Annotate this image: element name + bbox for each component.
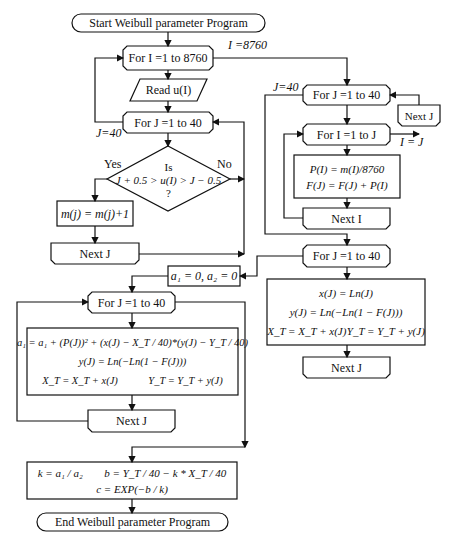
decision-line3: ? xyxy=(166,187,171,200)
decision-text: Is J + 0.5 > u(I) > J − 0.5 ? xyxy=(107,160,230,200)
decision-line2: J + 0.5 > u(I) > J − 0.5 xyxy=(116,174,221,187)
label-no: No xyxy=(217,157,232,172)
start-terminal-label: Start Weibull parameter Program xyxy=(72,14,265,32)
next-j-right-lower-label: Next J xyxy=(303,357,390,378)
regression-yt: Y_T = Y_T + y(J) xyxy=(148,371,222,390)
regression-line1: a₁ = a₁ + (P(J))² + (x(J) − X_T / 40)*(y… xyxy=(17,333,248,352)
end-terminal-label: End Weibull parameter Program xyxy=(37,513,228,531)
loop-j-right-lower-label: For J =1 to 40 xyxy=(303,245,390,267)
prob-line1: P(I) = m(I)/8760 xyxy=(310,161,385,177)
loop-j-bottom-label: For J =1 to 40 xyxy=(88,292,175,313)
xy-line2: y(J) = Ln(−Ln(1 − F(J))) xyxy=(290,303,403,322)
next-i-label: Next I xyxy=(303,208,390,229)
label-j-40-left: J=40 xyxy=(96,126,121,141)
prob-line2: F(J) = F(J) + P(I) xyxy=(306,177,387,193)
label-i-8760: I =8760 xyxy=(228,38,267,53)
loop-j-left-label: For J =1 to 40 xyxy=(123,112,213,133)
result-line1: k = a₁ / a₂ b = Y_T / 40 − k * X_T / 40 xyxy=(27,465,237,481)
prob-text: P(I) = m(I)/8760 F(J) = F(J) + P(I) xyxy=(294,155,400,198)
next-j-left-label: Next J xyxy=(51,243,139,264)
label-i-eq-j: I = J xyxy=(400,135,423,150)
next-j-right-small-label: Next J xyxy=(398,105,440,126)
loop-i-to-j-label: For I =1 to J xyxy=(303,124,390,145)
label-yes: Yes xyxy=(104,157,121,172)
read-u-label: Read u(I) xyxy=(130,79,207,101)
result-k: k = a₁ / a₂ xyxy=(38,465,83,481)
result-b: b = Y_T / 40 − k * X_T / 40 xyxy=(104,465,226,481)
loop-j-right-label: For J =1 to 40 xyxy=(303,85,390,105)
xy-line3: X_T = X_T + x(J) Y_T = Y_T + y(J) xyxy=(267,322,425,341)
xy-line1: x(J) = Ln(J) xyxy=(319,284,373,303)
regression-text: a₁ = a₁ + (P(J))² + (x(J) − X_T / 40)*(y… xyxy=(27,330,238,393)
init-a-label: a₁ = 0, a₂ = 0 xyxy=(168,266,240,286)
next-j-bottom-label: Next J xyxy=(88,410,175,432)
increment-label: m(j) = m(j)+1 xyxy=(57,201,133,226)
decision-line1: Is xyxy=(165,161,173,174)
xy-yt: Y_T = Y_T + y(J) xyxy=(347,322,425,341)
result-c: c = EXP(−b / k) xyxy=(96,481,168,497)
regression-xt: X_T = X_T + x(J) xyxy=(42,371,118,390)
xy-xt: X_T = X_T + x(J) xyxy=(267,322,346,341)
result-text: k = a₁ / a₂ b = Y_T / 40 − k * X_T / 40 … xyxy=(27,462,237,499)
regression-line3: X_T = X_T + x(J) Y_T = Y_T + y(J) xyxy=(27,371,238,390)
xy-text: x(J) = Ln(J) y(J) = Ln(−Ln(1 − F(J))) X_… xyxy=(267,281,425,343)
loop-i-8760-label: For I =1 to 8760 xyxy=(123,46,213,70)
label-j-40-right: J=40 xyxy=(273,80,298,95)
regression-line2: y(J) = Ln(−Ln(1 − F(J))) xyxy=(79,352,187,371)
